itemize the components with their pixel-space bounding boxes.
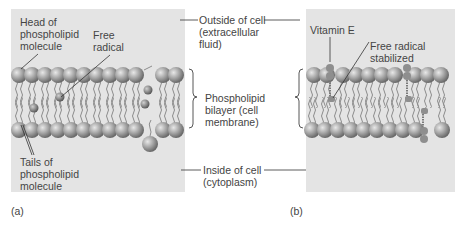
label-tails-of-phospholipid: Tails of phospholipid molecule — [20, 156, 79, 192]
panel-a-bottom-leaflet — [11, 97, 184, 138]
panel-b-bottom-leaflet — [304, 97, 450, 138]
label-vitamin-e: Vitamin E — [310, 24, 355, 36]
label-free-radical: Free radical — [93, 29, 124, 53]
label-phospholipid-bilayer: Phospholipid bilayer (cell membrane) — [205, 92, 265, 128]
label-free-radical-stabilized: Free radical stabilized — [370, 40, 425, 64]
label-outside-of-cell: Outside of cell (extracellular fluid) — [199, 14, 266, 50]
panel-b-tag: (b) — [290, 205, 303, 217]
label-head-of-phospholipid: Head of phospholipid molecule — [20, 16, 79, 52]
panel-a-top-leaflet — [11, 67, 184, 108]
label-inside-of-cell: Inside of cell (cytoplasm) — [203, 164, 261, 188]
panel-a-tag: (a) — [11, 205, 24, 217]
